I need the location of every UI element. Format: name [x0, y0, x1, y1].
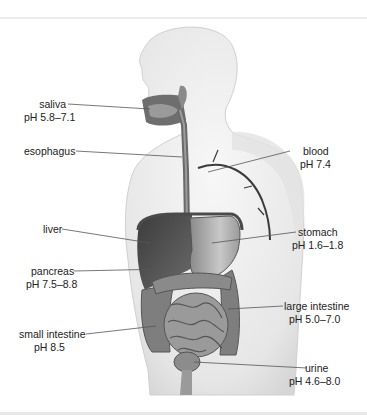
- label-name: small intestine: [19, 328, 86, 341]
- label-ph: pH 7.4: [300, 158, 331, 171]
- label-large-intestine-ph: pH 5.0–7.0: [289, 313, 340, 326]
- label-ph: pH 5.8–7.1: [24, 111, 75, 124]
- label-saliva: saliva: [20, 98, 66, 111]
- label-ph: pH 4.6–8.0: [289, 375, 340, 388]
- label-blood: blood: [303, 145, 329, 158]
- label-urine: urine: [305, 362, 328, 375]
- label-name: saliva: [20, 98, 66, 111]
- label-ph: pH 1.6–1.8: [292, 239, 343, 252]
- label-name: large intestine: [284, 300, 349, 313]
- label-saliva-ph: pH 5.8–7.1: [24, 111, 75, 124]
- label-name: esophagus: [24, 145, 75, 158]
- label-ph: pH 7.5–8.8: [26, 278, 77, 291]
- label-liver: liver: [43, 223, 62, 236]
- label-name: urine: [305, 362, 328, 375]
- label-ph: pH 5.0–7.0: [289, 313, 340, 326]
- label-ph: pH 8.5: [34, 341, 65, 354]
- label-small-intestine-ph: pH 8.5: [34, 341, 65, 354]
- label-urine-ph: pH 4.6–8.0: [289, 375, 340, 388]
- label-name: pancreas: [31, 265, 74, 278]
- label-stomach-ph: pH 1.6–1.8: [292, 239, 343, 252]
- label-esophagus: esophagus: [24, 145, 75, 158]
- label-stomach: stomach: [298, 226, 338, 239]
- label-blood-ph: pH 7.4: [300, 158, 331, 171]
- label-pancreas-ph: pH 7.5–8.8: [26, 278, 77, 291]
- label-name: blood: [303, 145, 329, 158]
- label-pancreas: pancreas: [31, 265, 74, 278]
- label-name: stomach: [298, 226, 338, 239]
- label-small-intestine: small intestine: [19, 328, 86, 341]
- label-large-intestine: large intestine: [284, 300, 349, 313]
- label-name: liver: [43, 223, 62, 236]
